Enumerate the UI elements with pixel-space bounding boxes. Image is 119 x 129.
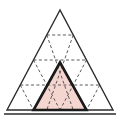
geometry-figure [0,0,119,129]
subdivided-triangle-diagram [0,0,119,129]
